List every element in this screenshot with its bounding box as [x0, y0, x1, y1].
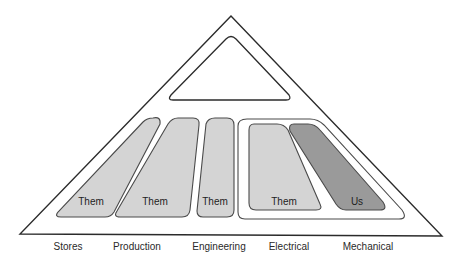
- pyramid-diagram: Them Them Them Them Us Stores Production…: [0, 0, 454, 263]
- box-label-engineering: Them: [202, 196, 228, 207]
- box-label-stores: Them: [78, 196, 104, 207]
- department-label-electrical: Electrical: [269, 241, 310, 252]
- box-label-production: Them: [142, 196, 168, 207]
- department-label-engineering: Engineering: [192, 241, 245, 252]
- department-label-production: Production: [113, 241, 161, 252]
- department-label-mechanical: Mechanical: [343, 241, 394, 252]
- box-label-mechanical: Us: [351, 196, 363, 207]
- box-label-electrical: Them: [271, 196, 297, 207]
- department-label-stores: Stores: [54, 241, 83, 252]
